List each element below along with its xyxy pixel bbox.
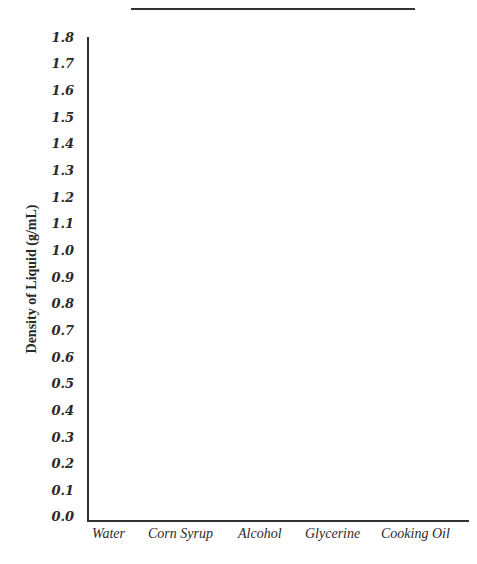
y-tick-label: 0.5 (20, 377, 74, 391)
y-tick-label: 0.9 (20, 271, 74, 285)
x-category-alcohol: Alcohol (238, 526, 282, 542)
y-tick-label: 1.3 (20, 164, 74, 178)
y-tick-label: 1.5 (20, 111, 74, 125)
y-tick-label: 0.6 (20, 351, 74, 365)
y-tick-label: 1.2 (20, 191, 74, 205)
y-axis-line (87, 37, 89, 522)
y-tick-label: 1.6 (20, 84, 74, 98)
x-category-corn-syrup: Corn Syrup (148, 526, 213, 542)
x-category-glycerine: Glycerine (305, 526, 360, 542)
y-tick-label: 0.4 (20, 404, 74, 418)
y-tick-label: 1.1 (20, 217, 74, 231)
y-tick-label: 0.0 (20, 510, 74, 524)
y-tick-label: 1.8 (20, 31, 74, 45)
y-tick-label: 0.7 (20, 324, 74, 338)
x-category-cooking-oil: Cooking Oil (381, 526, 450, 542)
y-tick-label: 1.0 (20, 244, 74, 258)
y-tick-label: 1.4 (20, 137, 74, 151)
x-axis-line (87, 520, 469, 522)
y-tick-label: 0.8 (20, 297, 74, 311)
y-tick-label: 0.2 (20, 457, 74, 471)
y-tick-label: 0.3 (20, 431, 74, 445)
y-tick-label: 1.7 (20, 57, 74, 71)
title-blank-line (131, 8, 415, 10)
y-tick-label: 0.1 (20, 484, 74, 498)
x-category-water: Water (92, 526, 125, 542)
